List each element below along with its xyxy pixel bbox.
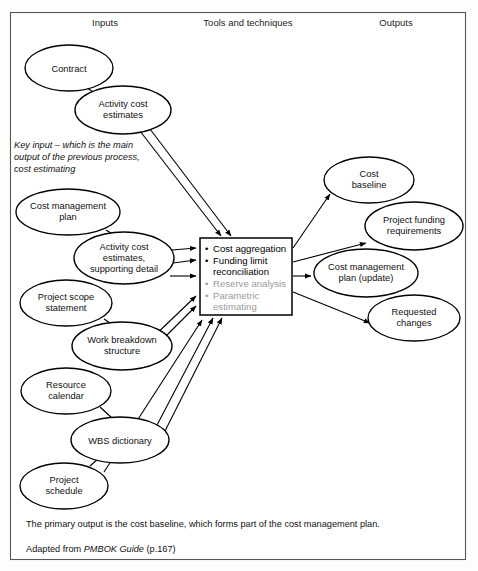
bullet-marker-2: • [205,255,208,266]
source-caption-title: PMBOK Guide [84,544,144,554]
node-contract[interactable]: Contract [25,45,113,91]
bullet-label-funding-limit: Funding limit [213,255,268,266]
node-cost-management-plan-update-label: Cost management [328,262,404,272]
node-project-schedule-label-2: schedule [45,486,82,496]
column-header-inputs: Inputs [92,17,118,28]
key-input-note-line-3: cost estimating [14,164,76,174]
node-requested-changes-label-2: changes [396,318,432,328]
primary-output-caption: The primary output is the cost baseline,… [26,519,380,529]
node-activity-cost-estimates-supporting-detail[interactable]: Activity cost estimates, supporting deta… [74,232,174,284]
node-work-breakdown-structure-label: Work breakdown [87,335,157,345]
node-requested-changes[interactable]: Requested changes [368,295,460,341]
tools-and-techniques-box[interactable]: • Cost aggregation • Funding limit recon… [200,238,292,315]
node-activity-cost-estimates-label-2: estimates [103,110,143,120]
bullet-label-parametric-2: estimating [213,301,257,312]
key-input-note-line-1: Key input – which is the main [14,140,133,150]
node-project-schedule-label: Project [50,475,79,485]
node-project-funding-requirements[interactable]: Project funding requirements [365,202,463,250]
column-header-outputs: Outputs [379,17,413,28]
node-cost-management-plan-label-2: plan [59,212,77,222]
process-flow-diagram: Inputs Tools and techniques Outputs [0,0,478,571]
node-project-scope-statement-label: Project scope [38,292,94,302]
node-resource-calendar-label: Resource [46,380,86,390]
bullet-marker-3: • [205,278,208,289]
node-cost-baseline-label-2: baseline [352,180,387,190]
source-caption-prefix: Adapted from [26,544,84,554]
bullet-label-parametric: Parametric [213,290,260,301]
node-project-funding-requirements-label-2: requirements [387,226,442,236]
bullet-label-funding-limit-2: reconciliation [213,266,269,277]
node-project-scope-statement[interactable]: Project scope statement [20,280,112,326]
node-cost-management-plan-update-label-2: plan (update) [339,273,394,283]
node-cost-baseline[interactable]: Cost baseline [324,157,414,203]
node-work-breakdown-structure[interactable]: Work breakdown structure [72,322,172,370]
bullet-marker-1: • [205,243,208,254]
node-contract-label: Contract [51,64,87,74]
node-project-schedule[interactable]: Project schedule [20,463,108,509]
node-cost-management-plan-label: Cost management [30,201,106,211]
node-resource-calendar-label-2: calendar [48,391,84,401]
node-activity-detail-label-3: supporting detail [90,264,158,274]
node-project-scope-statement-label-2: statement [46,303,87,313]
source-caption-suffix: (p.167) [144,544,176,554]
key-input-note-line-2: output of the previous process, [14,152,140,162]
bullet-label-cost-aggregation: Cost aggregation [213,243,286,254]
node-activity-detail-label-2: estimates, [103,253,145,263]
node-project-funding-requirements-label: Project funding [383,215,445,225]
column-header-tools: Tools and techniques [203,17,293,28]
node-cost-management-plan[interactable]: Cost management plan [16,189,120,235]
source-caption: Adapted from PMBOK Guide (p.167) [26,544,176,554]
node-resource-calendar[interactable]: Resource calendar [21,368,111,414]
figure-page: Inputs Tools and techniques Outputs [0,0,478,571]
node-cost-baseline-label: Cost [359,169,379,179]
node-activity-detail-label: Activity cost [99,242,148,252]
node-wbs-dictionary-label: WBS dictionary [88,436,152,446]
bullet-label-reserve-analysis: Reserve analysis [213,278,286,289]
node-activity-cost-estimates-label: Activity cost [98,99,147,109]
node-requested-changes-label: Requested [392,307,437,317]
node-cost-management-plan-update[interactable]: Cost management plan (update) [314,249,418,297]
bullet-marker-4: • [205,290,208,301]
node-wbs-dictionary[interactable]: WBS dictionary [71,417,169,463]
node-work-breakdown-structure-label-2: structure [104,346,140,356]
node-activity-cost-estimates[interactable]: Activity cost estimates [75,86,171,134]
